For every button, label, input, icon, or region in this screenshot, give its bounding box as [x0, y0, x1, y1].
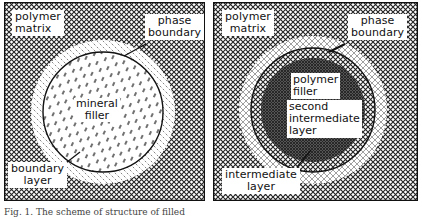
label-polymer-filler: polymer filler	[291, 73, 340, 99]
label-polymer-matrix: polymer matrix	[222, 10, 274, 36]
label-polymer-matrix: polymer matrix	[12, 10, 64, 36]
label-intermediate-layer: intermediate layer	[222, 168, 300, 194]
label-phase-boundary: phase boundary	[348, 14, 407, 40]
figure-caption: Fig. 1. The scheme of structure of fille…	[4, 207, 185, 217]
label-phase-boundary: phase boundary	[145, 14, 204, 40]
label-second-intermediate-layer: second intermediate layer	[287, 100, 362, 138]
right-panel-polymer-filler-diagram: polymer matrix phase boundary polymer fi…	[213, 2, 418, 201]
label-boundary-layer: boundary layer	[8, 162, 67, 188]
left-panel-mineral-filler-diagram: polymer matrix phase boundary mineral fi…	[4, 2, 205, 201]
label-mineral-filler: mineral filler	[74, 98, 120, 122]
